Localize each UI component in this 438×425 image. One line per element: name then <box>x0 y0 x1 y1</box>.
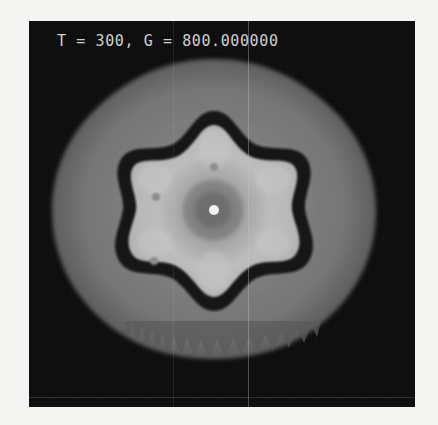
simulation-figure-panel: T = 300, G = 800.000000 <box>29 21 415 407</box>
vertical-scan-artifact-faint <box>173 21 174 407</box>
background-page-text-fragment <box>0 0 438 8</box>
figure-caption: T = 300, G = 800.000000 <box>57 32 279 50</box>
center-dot <box>209 205 219 215</box>
bottom-scan-artifact <box>29 397 415 398</box>
vertical-scan-artifact <box>248 21 249 407</box>
crystal-visualization <box>29 21 415 407</box>
